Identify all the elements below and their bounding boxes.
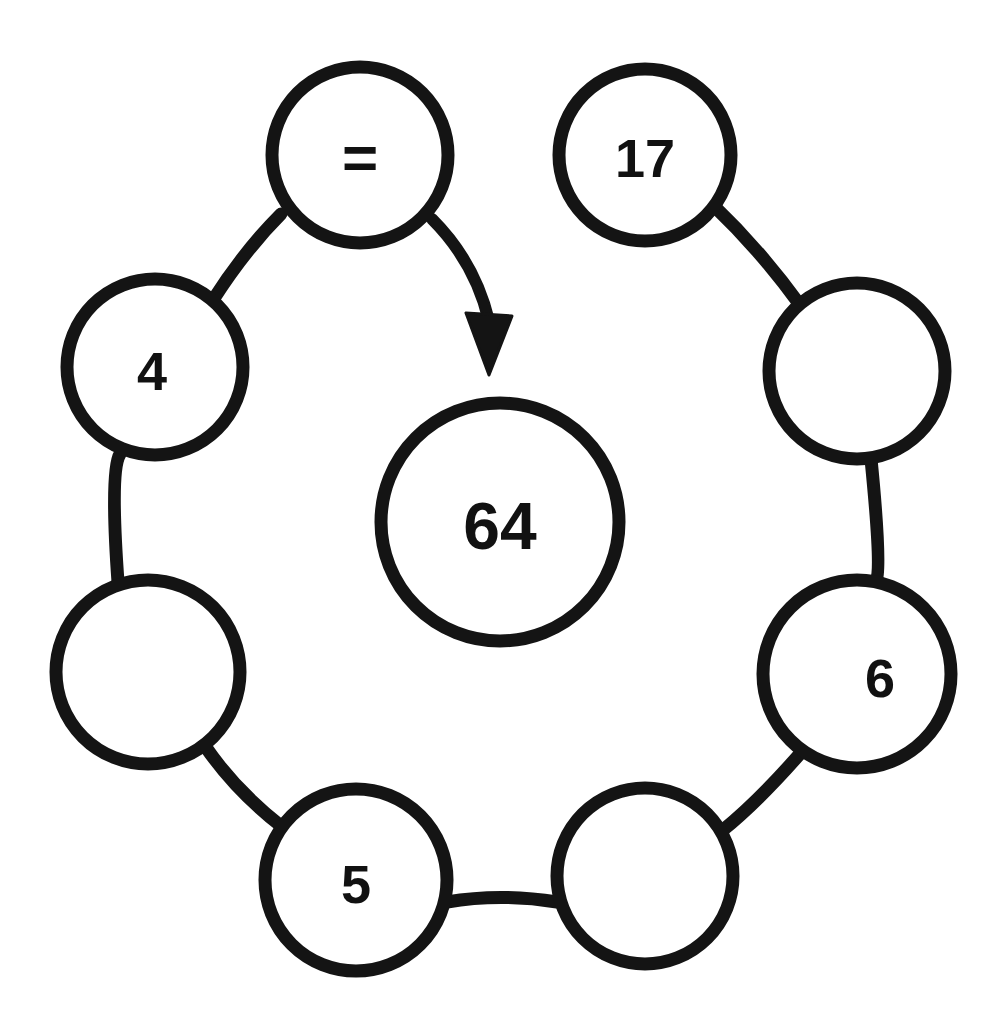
center-node[interactable]: 64 xyxy=(381,403,619,641)
node-circle-right-upper[interactable] xyxy=(769,283,945,459)
ring-node-bottom-right[interactable] xyxy=(557,788,733,964)
arrow-to-center xyxy=(432,219,512,375)
arrow-head-icon xyxy=(466,313,512,375)
ring-node-right-upper[interactable] xyxy=(769,283,945,459)
arrow-shaft xyxy=(432,219,489,321)
link-eq-to-four xyxy=(213,214,281,300)
node-circle-bottom-right[interactable] xyxy=(557,788,733,964)
ring-node-seventeen[interactable]: 17 xyxy=(559,69,731,241)
ring-node-left-lower[interactable] xyxy=(56,580,240,764)
ring-node-four[interactable]: 4 xyxy=(67,279,243,455)
diagram-canvas: = 17 6 5 xyxy=(0,0,993,1026)
node-label-five: 5 xyxy=(341,854,371,914)
node-label-center: 64 xyxy=(463,489,537,563)
link-seventeen-to-right-upper xyxy=(714,206,800,305)
ring-node-eq[interactable]: = xyxy=(272,67,448,243)
node-circle-left-lower[interactable] xyxy=(56,580,240,764)
link-five-to-left-lower xyxy=(205,746,281,826)
ring-diagram: = 17 6 5 xyxy=(0,0,993,1026)
link-right-upper-to-six xyxy=(871,459,878,581)
node-label-six: 6 xyxy=(865,648,895,708)
link-bottom-right-to-five xyxy=(447,898,557,903)
link-six-to-bottom-right xyxy=(723,748,805,830)
ring-node-five[interactable]: 5 xyxy=(265,789,447,971)
link-left-lower-to-four xyxy=(114,454,120,582)
node-label-eq: = xyxy=(342,123,378,192)
node-label-four: 4 xyxy=(137,341,167,401)
node-circle-six[interactable] xyxy=(763,580,951,768)
node-label-seventeen: 17 xyxy=(615,128,675,188)
ring-node-six[interactable]: 6 xyxy=(763,580,951,768)
